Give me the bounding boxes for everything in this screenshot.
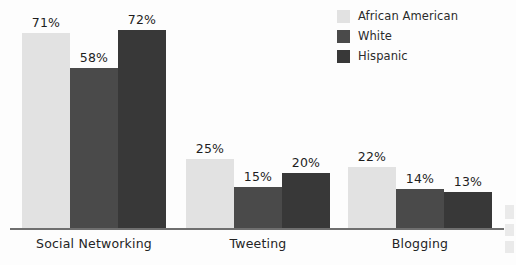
axis-baseline — [10, 228, 504, 230]
bar-value-label: 13% — [442, 174, 494, 189]
chart-page: African American White Hispanic 71% 58% … — [0, 0, 516, 265]
bar-group-bars: 71% 58% 72% — [22, 0, 166, 228]
bar-hispanic — [444, 192, 492, 228]
bar-white — [70, 68, 118, 228]
bar-value-label: 25% — [184, 141, 236, 156]
category-label-tweeting: Tweeting — [186, 236, 330, 251]
scan-edge-artifact — [505, 205, 514, 219]
bar-group-bars: 25% 15% 20% — [186, 0, 330, 228]
bar-value-label: 15% — [232, 169, 284, 184]
scan-edge-artifact — [505, 224, 514, 236]
bar-value-label: 58% — [68, 50, 120, 65]
bar-group-bars: 22% 14% 13% — [348, 0, 492, 228]
bar-group-social-networking: 71% 58% 72% Social Networking — [22, 0, 166, 265]
bar-group-tweeting: 25% 15% 20% Tweeting — [186, 0, 330, 265]
bar-white — [234, 187, 282, 228]
bar-hispanic — [118, 30, 166, 228]
bar-white — [396, 189, 444, 228]
bar-value-label: 14% — [394, 171, 446, 186]
bar-african-american — [22, 33, 70, 228]
category-label-blogging: Blogging — [348, 236, 492, 251]
bar-value-label: 71% — [20, 15, 72, 30]
plot-area: 71% 58% 72% Social Networking 25% 15% 20… — [0, 0, 516, 265]
bar-group-blogging: 22% 14% 13% Blogging — [348, 0, 492, 265]
bar-value-label: 20% — [280, 155, 332, 170]
bar-value-label: 72% — [116, 12, 168, 27]
scan-edge-artifact — [505, 241, 514, 253]
bar-african-american — [348, 167, 396, 228]
bar-value-label: 22% — [346, 149, 398, 164]
bar-hispanic — [282, 173, 330, 228]
bar-african-american — [186, 159, 234, 228]
category-label-social-networking: Social Networking — [22, 236, 166, 251]
